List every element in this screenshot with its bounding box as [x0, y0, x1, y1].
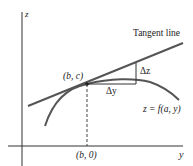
tangent-line	[28, 43, 183, 106]
base-point-label: (b, 0)	[76, 150, 97, 161]
y-axis-label: y	[178, 149, 184, 160]
z-axis-label: z	[24, 9, 29, 19]
tangent-line-diagram: z y (b, c) (b, 0) Tangent line Δz Δy z =…	[0, 0, 193, 166]
tangent-label: Tangent line	[133, 28, 180, 38]
point-label: (b, c)	[63, 71, 83, 82]
delta-z-label: Δz	[140, 66, 150, 76]
tangent-point	[85, 82, 89, 86]
delta-y-label: Δy	[106, 86, 117, 96]
curve-label: z = f(a, y)	[142, 104, 181, 115]
